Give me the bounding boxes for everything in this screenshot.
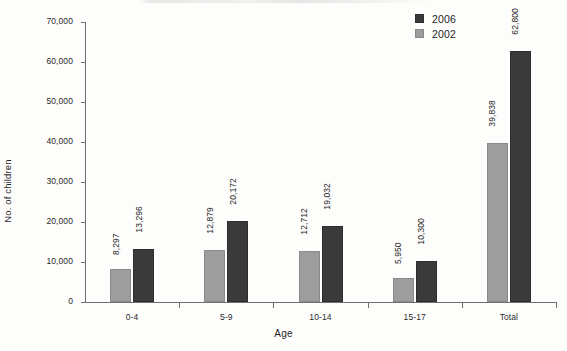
y-tick: 10,000 xyxy=(81,262,85,263)
x-separator-tick xyxy=(273,303,274,308)
x-axis-title: Age xyxy=(0,328,567,339)
bar-value-label: 12,712 xyxy=(299,208,309,235)
bar-2002-10-14[interactable]: 12,712 xyxy=(299,251,320,302)
cropped-title-strip xyxy=(0,0,567,3)
bar-2006-Total[interactable]: 62,800 xyxy=(510,51,531,302)
y-tick: 30,000 xyxy=(81,182,85,183)
y-tick: 70,000 xyxy=(81,22,85,23)
bar-2002-0-4[interactable]: 8,297 xyxy=(110,269,131,302)
bar-2006-10-14[interactable]: 19,032 xyxy=(322,226,343,302)
bar-value-label: 39,838 xyxy=(487,100,497,127)
x-category-label: 5-9 xyxy=(179,312,273,322)
y-tick: 50,000 xyxy=(81,102,85,103)
bar-2006-0-4[interactable]: 13,296 xyxy=(133,249,154,302)
y-tick-label: 70,000 xyxy=(46,16,73,26)
plot-area: 010,00020,00030,00040,00050,00060,00070,… xyxy=(85,22,556,302)
legend-item-2006[interactable]: 2006 xyxy=(415,11,456,26)
y-tick: 0 xyxy=(81,302,85,303)
y-tick-label: 40,000 xyxy=(46,136,73,146)
y-tick-label: 60,000 xyxy=(46,56,73,66)
x-separator-tick xyxy=(179,303,180,308)
x-axis-line xyxy=(85,302,557,303)
bar-2002-15-17[interactable]: 5,950 xyxy=(393,278,414,302)
bar-value-label: 62,800 xyxy=(510,8,520,35)
legend-label-2006: 2006 xyxy=(432,13,456,25)
bar-value-label: 5,950 xyxy=(393,243,403,265)
x-category-label: 15-17 xyxy=(368,312,462,322)
y-tick: 20,000 xyxy=(81,222,85,223)
y-tick: 40,000 xyxy=(81,142,85,143)
y-tick: 60,000 xyxy=(81,62,85,63)
bar-2002-5-9[interactable]: 12,879 xyxy=(204,250,225,302)
bar-value-label: 13,296 xyxy=(134,206,144,233)
bar-value-label: 8,297 xyxy=(111,233,121,255)
y-tick-label: 30,000 xyxy=(46,176,73,186)
y-tick-label: 50,000 xyxy=(46,96,73,106)
bar-value-label: 12,879 xyxy=(205,208,215,235)
y-tick-label: 0 xyxy=(68,296,73,306)
bar-chart-figure: No. of children Age 010,00020,00030,0004… xyxy=(0,0,567,351)
y-axis-title: No. of children xyxy=(2,131,13,251)
legend-item-2002[interactable]: 2002 xyxy=(415,26,456,41)
y-axis-line xyxy=(85,22,86,303)
bar-2002-Total[interactable]: 39,838 xyxy=(487,143,508,302)
x-category-label: 10-14 xyxy=(273,312,367,322)
legend-swatch-icon-2006 xyxy=(415,14,424,23)
legend: 2006 2002 xyxy=(415,11,456,41)
bar-value-label: 10,300 xyxy=(416,218,426,245)
x-separator-tick xyxy=(368,303,369,308)
bar-value-label: 19,032 xyxy=(322,183,332,210)
y-tick-label: 20,000 xyxy=(46,216,73,226)
bar-2006-15-17[interactable]: 10,300 xyxy=(416,261,437,302)
bar-2006-5-9[interactable]: 20,172 xyxy=(227,221,248,302)
x-separator-tick xyxy=(462,303,463,308)
y-tick-label: 10,000 xyxy=(46,256,73,266)
legend-swatch-icon-2002 xyxy=(415,29,424,38)
x-category-label: Total xyxy=(462,312,556,322)
legend-label-2002: 2002 xyxy=(432,28,456,40)
x-category-label: 0-4 xyxy=(85,312,179,322)
bar-value-label: 20,172 xyxy=(228,178,238,205)
x-separator-tick xyxy=(556,303,557,308)
